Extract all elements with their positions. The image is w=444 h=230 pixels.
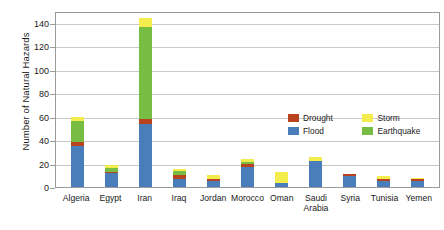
legend-item-flood: Flood	[288, 126, 352, 136]
bar-stack	[105, 165, 118, 187]
bar-segment-flood	[377, 181, 390, 187]
legend-swatch-icon	[362, 127, 373, 135]
bar-column	[401, 13, 435, 187]
bar-stack	[241, 159, 254, 187]
bar-segment-earthquake	[139, 27, 152, 119]
bar-column	[196, 13, 230, 187]
y-tick-mark	[50, 188, 55, 189]
legend-item-earthquake: Earthquake	[362, 126, 440, 136]
bar-stack	[71, 117, 84, 187]
bars-container	[56, 13, 439, 187]
bar-segment-flood	[241, 167, 254, 187]
bar-column	[128, 13, 162, 187]
legend-item-drought: Drought	[288, 113, 352, 123]
bar-segment-flood	[105, 173, 118, 187]
x-axis-label: Syria	[333, 190, 367, 226]
bar-segment-storm	[275, 172, 288, 184]
bar-stack	[207, 175, 220, 187]
legend-item-storm: Storm	[362, 113, 440, 123]
bar-stack	[343, 174, 356, 187]
x-axis-label: Jordan	[196, 190, 230, 226]
bar-segment-flood	[139, 124, 152, 187]
legend-label: Drought	[303, 113, 333, 123]
x-axis-label: Iran	[128, 190, 162, 226]
bar-stack	[139, 18, 152, 187]
x-axis-label: Saudi Arabia	[299, 190, 333, 226]
legend-label: Flood	[303, 126, 324, 136]
bar-column	[230, 13, 264, 187]
bar-stack	[377, 176, 390, 187]
y-axis-title: Number of Natural Hazards	[20, 7, 31, 177]
bar-segment-flood	[275, 183, 288, 187]
stacked-bar-chart: Number of Natural Hazards 02040608010012…	[0, 0, 444, 230]
x-axis-label: Egypt	[93, 190, 127, 226]
bar-stack	[309, 157, 322, 188]
plot-area	[56, 13, 439, 187]
bar-column	[333, 13, 367, 187]
y-tick-label: 0	[22, 183, 49, 193]
bar-column	[299, 13, 333, 187]
bar-stack	[411, 178, 424, 187]
bar-segment-earthquake	[71, 121, 84, 142]
bar-column	[60, 13, 94, 187]
legend-label: Storm	[377, 113, 399, 123]
x-axis-label: Iraq	[162, 190, 196, 226]
bar-segment-storm	[139, 18, 152, 27]
legend-label: Earthquake	[377, 126, 420, 136]
bar-column	[265, 13, 299, 187]
x-axis-label: Tunisia	[367, 190, 401, 226]
bar-segment-flood	[343, 176, 356, 187]
bar-column	[162, 13, 196, 187]
chart-legend: DroughtStormFloodEarthquake	[288, 113, 440, 136]
plot-frame: DroughtStormFloodEarthquake	[55, 12, 440, 188]
bar-segment-flood	[411, 181, 424, 187]
x-axis-labels: AlgeriaEgyptIranIraqJordanMoroccoOmanSau…	[55, 190, 440, 226]
bar-segment-flood	[309, 161, 322, 187]
legend-swatch-icon	[288, 127, 299, 135]
legend-swatch-icon	[288, 114, 299, 122]
x-axis-label: Morocco	[230, 190, 264, 226]
x-axis-label: Oman	[265, 190, 299, 226]
bar-stack	[173, 169, 186, 187]
bar-column	[367, 13, 401, 187]
bar-segment-flood	[71, 146, 84, 187]
bar-segment-flood	[207, 181, 220, 187]
x-axis-label: Algeria	[59, 190, 93, 226]
bar-column	[94, 13, 128, 187]
bar-stack	[275, 172, 288, 187]
x-axis-label: Yemen	[402, 190, 436, 226]
bar-segment-flood	[173, 179, 186, 187]
legend-swatch-icon	[362, 114, 373, 122]
